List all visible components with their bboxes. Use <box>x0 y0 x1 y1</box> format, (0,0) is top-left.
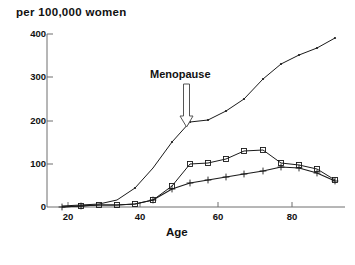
menopause-down-arrow-icon <box>180 84 193 127</box>
plot-area <box>0 0 355 265</box>
y-axis-ticks <box>47 34 53 164</box>
axes <box>47 34 345 207</box>
series-upper-curve <box>62 37 336 206</box>
series-square-marker <box>62 148 338 209</box>
chart-figure: per 100,000 women Menopause Age 400 300 … <box>0 0 355 265</box>
